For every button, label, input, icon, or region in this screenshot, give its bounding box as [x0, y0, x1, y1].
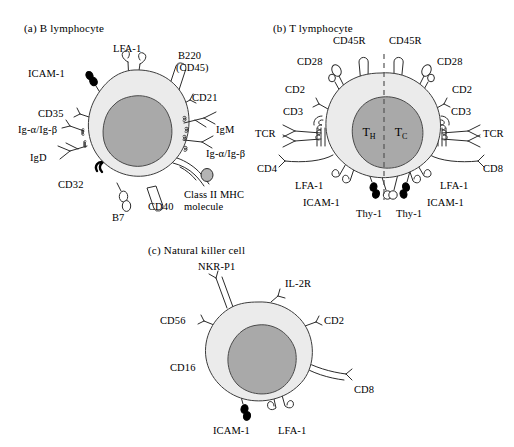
label-tcr-left: TCR [255, 128, 276, 140]
label-igd: IgD [30, 152, 47, 164]
label-icam1: ICAM-1 [28, 68, 65, 80]
panel-natural-killer-cell: (c) Natural killer cell [130, 230, 392, 447]
label-cd56: CD56 [160, 315, 186, 327]
label-cd45r-left: CD45R [333, 35, 366, 47]
label-cd16: CD16 [170, 362, 196, 374]
label-cd2-nk: CD2 [324, 315, 344, 327]
receptor-cd3-left [314, 116, 323, 140]
label-cd21: CD21 [192, 92, 218, 104]
panel-b-lymphocyte: (a) B lymphocyte [0, 0, 262, 232]
nk-cell-nucleus [228, 325, 296, 394]
label-cd4: CD4 [257, 163, 277, 175]
b-cell-nucleus [103, 96, 172, 167]
label-cd32: CD32 [58, 179, 84, 191]
label-thy1-left: Thy-1 [356, 208, 382, 220]
label-cd2-right: CD2 [452, 84, 472, 96]
label-thy1-right: Thy-1 [396, 208, 422, 220]
label-b220: B220 [178, 50, 201, 62]
label-cd2-left: CD2 [285, 84, 305, 96]
label-ig-alpha-beta-right: Ig-α/Ig-β [206, 148, 245, 160]
label-il2r: IL-2R [285, 278, 311, 290]
label-tcr-right: TCR [483, 128, 504, 140]
label-lfa1: LFA-1 [113, 43, 141, 55]
receptor-il2r [271, 289, 285, 302]
receptor-cd2-nk [305, 316, 322, 326]
receptor-cd56 [198, 315, 214, 325]
receptor-nkr-p1 [209, 271, 233, 308]
receptor-class-ii-mhc [173, 158, 213, 186]
label-ig-alpha-beta-left: Ig-α/Ig-β [18, 124, 57, 136]
label-class-ii-mhc-line2: molecule [184, 201, 223, 213]
receptor-cd2-left [313, 98, 328, 109]
label-icam1-left: ICAM-1 [303, 197, 340, 209]
receptor-ig-alpha-beta-left [62, 120, 86, 147]
label-cd8-nk: CD8 [354, 384, 374, 396]
label-cd3-right: CD3 [451, 106, 471, 118]
receptor-cd35 [74, 108, 89, 117]
label-igm: IgM [216, 124, 234, 136]
label-lfa1-nk: LFA-1 [278, 425, 306, 437]
receptor-tcr-left [283, 125, 325, 147]
label-icam1-right: ICAM-1 [427, 197, 464, 209]
label-cd35: CD35 [38, 108, 64, 120]
panel-t-lymphocyte: (b) T lymphocyte [255, 0, 514, 232]
receptor-cd8 [430, 155, 484, 167]
label-lfa1-right: LFA-1 [440, 180, 468, 192]
label-cd28-left: CD28 [297, 56, 323, 68]
receptor-cd3-right [440, 116, 449, 140]
label-lfa1-left: LFA-1 [295, 180, 323, 192]
label-nkr-p1: NKR-P1 [198, 261, 235, 273]
receptor-b7 [117, 183, 131, 211]
label-icam1-nk: ICAM-1 [213, 425, 250, 437]
label-cd28-right: CD28 [437, 56, 463, 68]
natural-killer-cell-drawing [130, 230, 392, 447]
receptor-tcr-right [438, 125, 480, 147]
label-b7: B7 [112, 212, 124, 224]
receptor-cd32 [96, 162, 103, 172]
label-cd3-left: CD3 [283, 106, 303, 118]
label-class-ii-mhc-line1: Class II MHC [184, 189, 244, 201]
label-cd8: CD8 [483, 163, 503, 175]
label-cd45r-right: CD45R [389, 35, 422, 47]
label-cd40: CD40 [148, 201, 174, 213]
receptor-cd4 [279, 155, 333, 167]
receptor-igd [58, 143, 87, 159]
label-cd45: (CD45) [176, 62, 209, 74]
